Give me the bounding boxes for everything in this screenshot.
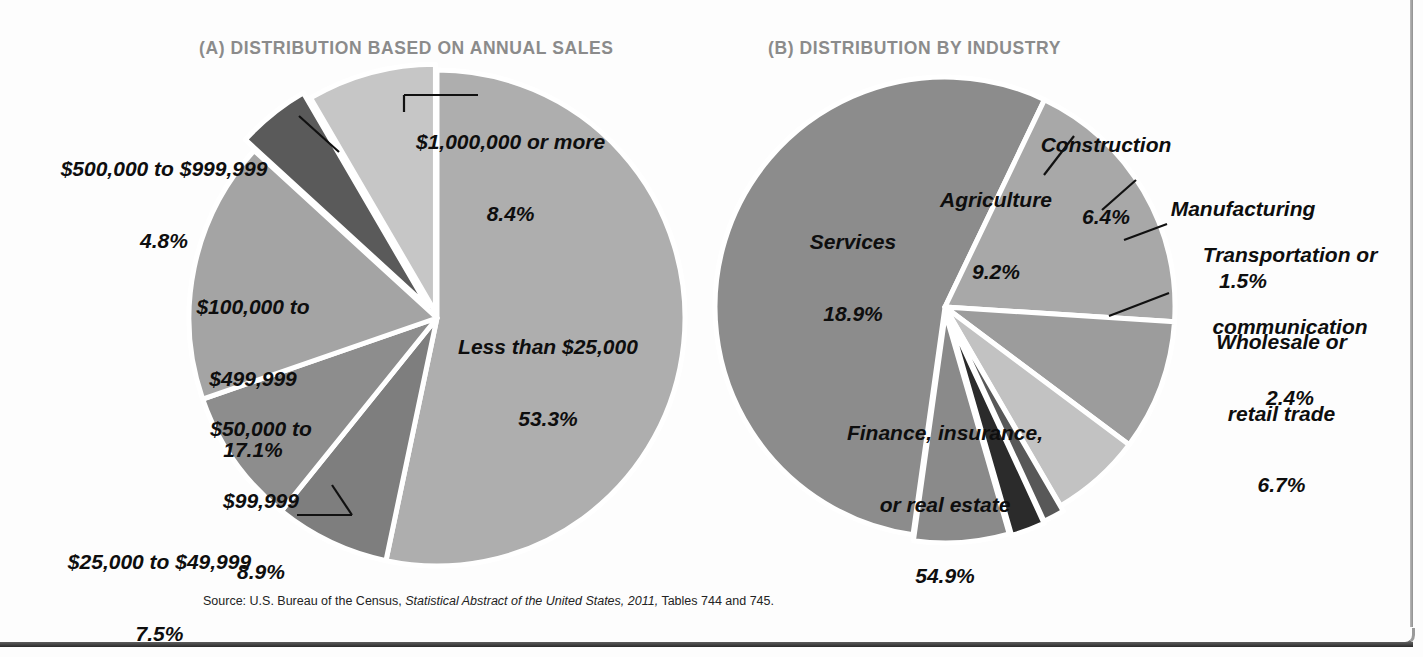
label-services: Services 18.9% [768,183,938,373]
label-finance-insurance-real-estate: Finance, insurance, or real estate 54.9% [800,374,1090,635]
source-note: Source: U.S. Bureau of the Census, Stati… [203,594,774,608]
label-services-pct: 18.9% [768,302,938,326]
label-transportation-name-line1: Transportation or [1172,243,1408,267]
source-italic: Statistical Abstract of the United State… [405,594,658,608]
source-prefix: Source: U.S. Bureau of the Census, [203,594,402,608]
label-finance-name-line1: Finance, insurance, [800,421,1090,445]
label-wholesale-name-line2: retail trade [1179,402,1384,426]
figure-page: (A) DISTRIBUTION BASED ON ANNUAL SALES $… [0,0,1423,657]
label-finance-pct: 54.9% [800,564,1090,588]
label-wholesale-pct: 6.7% [1179,473,1384,497]
label-wholesale-name-line1: Wholesale or [1179,330,1384,354]
source-suffix: Tables 744 and 745. [661,594,774,608]
label-wholesale-or-retail-trade: Wholesale or retail trade 6.7% [1179,283,1384,544]
page-edge-bottom [0,642,1413,647]
label-services-name: Services [768,230,938,254]
page-edge-right [1410,0,1413,627]
label-finance-name-line2: or real estate [800,493,1090,517]
